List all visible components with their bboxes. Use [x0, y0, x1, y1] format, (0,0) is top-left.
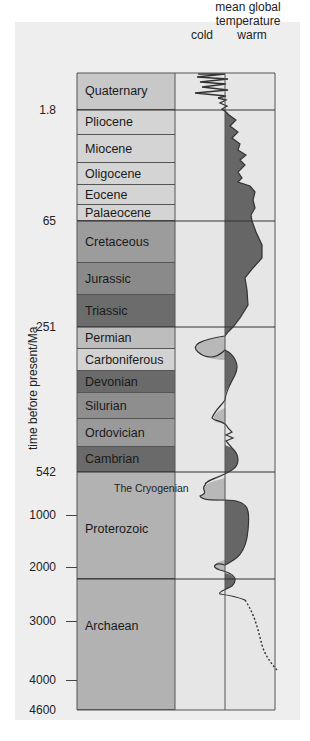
temperature-curve-chart: [0, 0, 310, 741]
cryogenian-label: The Cryogenian: [114, 482, 189, 494]
